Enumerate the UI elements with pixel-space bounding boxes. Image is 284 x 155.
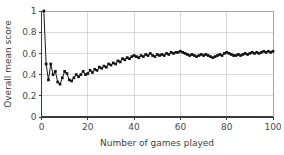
data-point xyxy=(140,54,143,57)
data-point xyxy=(253,52,256,55)
data-point xyxy=(119,61,122,64)
x-tick-label: 80 xyxy=(221,122,233,132)
data-point xyxy=(235,54,238,57)
data-point xyxy=(112,62,115,65)
data-point xyxy=(103,65,106,68)
data-point xyxy=(255,51,258,54)
data-point xyxy=(82,70,85,73)
data-point xyxy=(42,10,45,13)
data-point xyxy=(73,76,76,79)
x-tick-label: 100 xyxy=(264,122,281,132)
data-point xyxy=(211,56,214,59)
data-point xyxy=(232,54,235,57)
plot-frame xyxy=(42,11,274,117)
data-point xyxy=(228,52,231,55)
data-point xyxy=(172,52,175,55)
data-point xyxy=(126,56,129,59)
data-point xyxy=(272,50,275,53)
chart-figure: 020406080100 00.20.40.60.81 Number of ga… xyxy=(0,0,284,155)
data-point xyxy=(265,51,268,54)
series-markers xyxy=(42,10,274,86)
data-point xyxy=(121,57,124,60)
data-point xyxy=(135,55,138,58)
data-point xyxy=(244,52,247,55)
y-tick-label: 0 xyxy=(31,112,37,122)
data-point xyxy=(249,52,252,55)
data-point xyxy=(96,69,99,72)
data-point xyxy=(128,57,131,60)
data-point xyxy=(75,73,78,76)
data-point xyxy=(209,55,212,58)
data-point xyxy=(179,50,182,53)
data-point xyxy=(230,53,233,56)
data-point xyxy=(133,54,136,57)
data-point xyxy=(123,58,126,61)
data-point xyxy=(91,71,94,74)
data-point xyxy=(223,52,226,55)
data-point xyxy=(114,63,117,66)
y-axis-title: Overall mean score xyxy=(3,20,13,108)
data-point xyxy=(70,80,73,83)
y-tick-label: 1 xyxy=(31,6,37,16)
data-point xyxy=(68,79,71,82)
data-point xyxy=(151,54,154,57)
gridlines xyxy=(42,11,274,117)
data-point xyxy=(198,54,201,57)
data-point xyxy=(161,53,164,56)
data-point xyxy=(54,70,57,73)
data-point xyxy=(186,53,189,56)
data-point xyxy=(184,52,187,55)
x-tick-label: 60 xyxy=(175,122,187,132)
data-point xyxy=(147,54,150,57)
data-point xyxy=(63,70,66,73)
data-point xyxy=(251,51,254,54)
data-point xyxy=(258,52,261,55)
x-tick-label: 0 xyxy=(39,122,45,132)
data-point xyxy=(77,75,80,78)
data-point xyxy=(165,52,168,55)
data-point xyxy=(80,73,83,76)
y-tick-label: 0.8 xyxy=(22,27,37,37)
data-point xyxy=(242,53,245,56)
data-point xyxy=(188,54,191,57)
data-point xyxy=(154,55,157,58)
data-point xyxy=(47,79,50,82)
data-point xyxy=(262,50,265,53)
y-tick-label: 0.2 xyxy=(22,91,36,101)
data-point xyxy=(167,53,170,56)
x-tick-labels: 020406080100 xyxy=(39,122,282,132)
data-point xyxy=(163,54,166,57)
y-tick-labels: 00.20.40.60.81 xyxy=(22,6,37,122)
data-point xyxy=(237,53,240,56)
x-axis-title: Number of games played xyxy=(100,138,214,148)
data-point xyxy=(205,53,208,56)
data-point xyxy=(207,54,210,57)
data-point xyxy=(170,51,173,54)
data-point xyxy=(202,54,205,57)
data-point xyxy=(142,55,145,58)
data-point xyxy=(66,72,69,75)
data-point xyxy=(59,83,62,86)
data-point xyxy=(110,64,113,67)
data-point xyxy=(225,51,228,54)
data-point xyxy=(260,51,263,54)
data-point xyxy=(117,59,120,62)
data-point xyxy=(214,55,217,58)
data-point xyxy=(149,52,152,55)
series-line-overall-mean-score xyxy=(44,11,273,84)
data-point xyxy=(181,51,184,54)
data-point xyxy=(144,53,147,56)
data-point xyxy=(177,51,180,54)
data-point xyxy=(100,67,103,70)
data-point xyxy=(246,53,249,56)
data-point xyxy=(195,55,198,58)
data-point xyxy=(239,54,242,57)
data-point xyxy=(105,66,108,69)
data-point xyxy=(56,81,59,84)
data-point xyxy=(130,55,133,58)
data-point xyxy=(267,50,270,53)
data-point xyxy=(89,69,92,72)
data-point xyxy=(107,63,110,66)
data-point xyxy=(200,53,203,56)
line-chart: 020406080100 00.20.40.60.81 Number of ga… xyxy=(0,0,284,155)
